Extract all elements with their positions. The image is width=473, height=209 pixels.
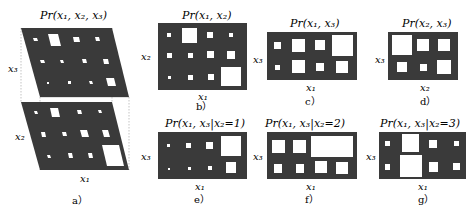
- panel-g-caption: g）: [418, 194, 434, 205]
- panel-a-ylabel-x3: x₃: [8, 63, 18, 74]
- panel-a-ylabel-x2: x₂: [15, 131, 25, 142]
- panel-e-ylabel: x₃: [141, 151, 151, 162]
- panel-f: Pr(x₁, x₃|x₂=2) x₃ x₁ f）: [253, 117, 357, 205]
- panel-c: Pr(x₁, x₃) x₃ x₁ c）: [253, 17, 357, 107]
- panel-f-caption: f）: [305, 194, 319, 205]
- panel-d-ylabel: x₃: [375, 54, 385, 65]
- panel-g-ylabel: x₃: [366, 151, 376, 162]
- panel-a-caption: a）: [72, 195, 88, 206]
- panel-e: Pr(x₁, x₃|x₂=1) x₃ x₁ e）: [141, 117, 247, 205]
- panel-a-title: Pr(x₁, x₂, x₃): [39, 9, 107, 22]
- panel-d-title: Pr(x₂, x₃): [401, 17, 451, 30]
- panel-f-title: Pr(x₁, x₃|x₂=2): [264, 117, 345, 131]
- panel-g: Pr(x₁, x₃|x₂=3) x₃ x₁ g）: [366, 117, 466, 205]
- panel-a: Pr(x₁, x₂, x₃): [8, 9, 129, 206]
- panel-b-caption: b）: [196, 101, 212, 112]
- probability-diagram: Pr(x₁, x₂, x₃): [0, 0, 473, 209]
- panel-g-title: Pr(x₁, x₃|x₂=3): [379, 117, 460, 131]
- panel-b: Pr(x₁, x₂) x₂ x₁ b）: [141, 9, 247, 112]
- panel-d: Pr(x₂, x₃) x₃ x₂ d）: [375, 17, 458, 107]
- panel-c-ylabel: x₃: [253, 54, 263, 65]
- panel-g-xlabel: x₁: [418, 181, 428, 192]
- panel-c-xlabel: x₁: [306, 82, 316, 93]
- panel-d-xlabel: x₂: [420, 82, 430, 93]
- panel-e-xlabel: x₁: [195, 181, 205, 192]
- panel-f-xlabel: x₁: [306, 181, 316, 192]
- panel-b-ylabel: x₂: [141, 51, 151, 62]
- panel-d-caption: d）: [420, 96, 436, 107]
- panel-e-caption: e）: [194, 194, 210, 205]
- panel-e-title: Pr(x₁, x₃|x₂=1): [164, 117, 245, 131]
- panel-c-caption: c）: [305, 96, 321, 107]
- panel-a-xlabel: x₁: [80, 173, 90, 184]
- panel-f-ylabel: x₃: [253, 151, 263, 162]
- panel-b-title: Pr(x₁, x₂): [181, 9, 231, 22]
- panel-c-title: Pr(x₁, x₃): [289, 17, 339, 30]
